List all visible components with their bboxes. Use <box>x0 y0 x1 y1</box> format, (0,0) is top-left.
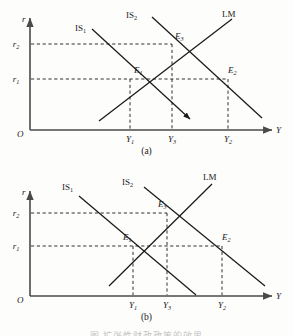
label-lm-b: LM <box>203 172 217 182</box>
label-lm-a: LM <box>222 9 236 19</box>
figure-footer-partial-text: 图 扩张性财政政策的效果 <box>0 329 293 336</box>
label-origin-b: O <box>17 295 24 305</box>
panel-b: IS1 IS2 LM E1 E3 E2 r Y O r2 r1 Y1 Y3 Y2… <box>0 166 293 336</box>
curve-lm-a <box>99 19 232 121</box>
label-x-axis-a: Y <box>276 125 282 135</box>
tick-y3-b: Y3 <box>163 300 171 311</box>
label-y-axis-b: r <box>22 187 26 197</box>
label-e3-a: E3 <box>174 31 184 42</box>
tick-y3-a: Y3 <box>168 134 176 145</box>
tick-y1-a: Y1 <box>126 134 134 145</box>
label-is1-a: IS1 <box>75 23 86 34</box>
label-origin-a: O <box>17 129 24 139</box>
label-e1-b: E1 <box>122 232 132 243</box>
islm-figure: IS1 IS2 LM E1 E3 E2 r Y O r2 r1 Y1 Y3 Y2… <box>0 0 293 336</box>
tick-y2-a: Y2 <box>224 134 232 145</box>
label-y-axis-a: r <box>22 14 26 24</box>
tick-r2-a: r2 <box>13 39 20 50</box>
tick-y1-b: Y1 <box>129 300 137 311</box>
label-is1-b: IS1 <box>62 182 73 193</box>
tick-r1-a: r1 <box>13 74 20 85</box>
label-e2-b: E2 <box>221 232 231 243</box>
label-e2-a: E2 <box>227 65 237 76</box>
panel-b-plot: IS1 IS2 LM E1 E3 E2 r Y O r2 r1 Y1 Y3 Y2 <box>0 166 293 318</box>
curve-is1-b <box>79 196 196 295</box>
panel-a: IS1 IS2 LM E1 E3 E2 r Y O r2 r1 Y1 Y3 Y2… <box>0 0 293 170</box>
label-is2-b: IS2 <box>122 177 133 188</box>
tick-r1-b: r1 <box>13 241 20 252</box>
panel-a-caption: (a) <box>0 146 293 156</box>
panel-b-caption: (b) <box>0 312 293 322</box>
tick-r2-b: r2 <box>13 208 20 219</box>
label-x-axis-b: Y <box>276 291 282 301</box>
panel-a-plot: IS1 IS2 LM E1 E3 E2 r Y O r2 r1 Y1 Y3 Y2 <box>0 0 293 152</box>
label-e1-a: E1 <box>133 65 143 76</box>
tick-y2-b: Y2 <box>218 300 226 311</box>
label-is2-a: IS2 <box>126 10 137 21</box>
label-e3-b: E3 <box>157 199 167 210</box>
